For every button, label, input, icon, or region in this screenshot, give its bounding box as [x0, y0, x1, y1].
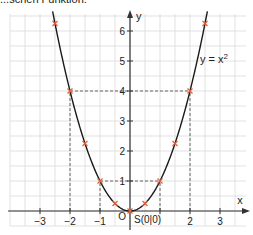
x-tick-label: 3 — [217, 216, 223, 227]
x-tick-label: −3 — [34, 216, 46, 227]
vertex-label: S(0|0) — [134, 214, 161, 225]
x-axis-label: x — [237, 194, 243, 206]
origin-label: O — [118, 211, 126, 222]
axis-labels: −3−2−123123456yxOS(0|0)y = x2 — [34, 10, 243, 227]
axes — [8, 10, 250, 230]
x-tick-label: −1 — [94, 216, 106, 227]
parabola-chart: −3−2−123123456yxOS(0|0)y = x2 — [0, 0, 253, 235]
x-tick-label: 2 — [187, 216, 193, 227]
y-axis-arrow-icon — [127, 10, 133, 18]
y-tick-label: 6 — [119, 26, 125, 37]
y-tick-label: 3 — [119, 116, 125, 127]
y-tick-label: 1 — [119, 176, 125, 187]
y-tick-label: 5 — [119, 56, 125, 67]
y-axis-label: y — [136, 10, 142, 22]
x-tick-label: −2 — [64, 216, 76, 227]
y-tick-label: 2 — [119, 146, 125, 157]
function-label: y = x2 — [200, 52, 229, 65]
y-tick-label: 4 — [119, 86, 125, 97]
grid — [10, 14, 246, 226]
x-axis-arrow-icon — [242, 208, 250, 214]
